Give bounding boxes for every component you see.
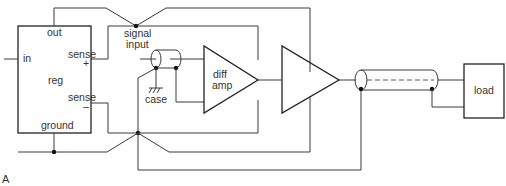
pin-label-in: in [23, 52, 31, 64]
regulator-label: reg [48, 74, 63, 86]
pin-label-ground: ground [41, 119, 74, 131]
out-feed-wire [136, 8, 310, 72]
ground-rail-left [18, 133, 138, 152]
pin-sign-plus: + [83, 57, 89, 69]
input-coax [140, 50, 204, 68]
output-coax [339, 70, 464, 90]
ground-rail-coax [138, 89, 361, 170]
pin-sign-minus: – [83, 100, 89, 112]
circuit-diagram: out in sense + reg sense – ground signal… [0, 0, 506, 186]
sense-plus-wire [91, 26, 258, 60]
out-wire [54, 8, 136, 26]
case-label: case [145, 93, 167, 105]
signal-input-label-2: input [126, 38, 149, 50]
sense-minus-wire [91, 103, 138, 133]
load-label: load [474, 84, 494, 96]
diff-minus-wire [176, 68, 204, 102]
diff-amp-label-2: amp [212, 79, 233, 91]
reg-ground-node [52, 150, 56, 154]
ground-rail-amp [138, 133, 310, 152]
load-return-wire [432, 89, 464, 107]
figure-label: A [2, 173, 10, 185]
output-shield-node-left [359, 87, 363, 91]
regulator-block: out in sense + reg sense – ground [18, 26, 96, 133]
pin-label-out: out [47, 26, 62, 38]
